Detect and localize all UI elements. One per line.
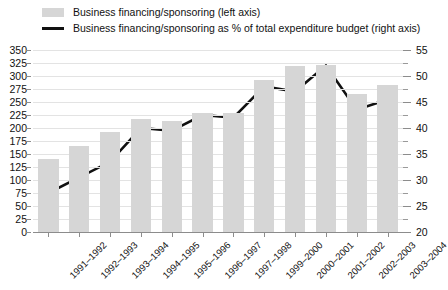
legend-item-bar: Business financing/sponsoring (left axis… <box>0 4 438 20</box>
x-axis-tick-mark <box>172 233 173 237</box>
x-axis-tick-mark <box>203 233 204 237</box>
y-axis-right-minor-tick-mark <box>403 89 408 90</box>
y-axis-right-tick-mark <box>403 76 411 77</box>
legend-line-label: Business financing/sponsoring as % of to… <box>73 23 420 34</box>
x-axis-tick-mark <box>110 233 111 237</box>
bar <box>316 65 336 232</box>
gridline <box>33 50 403 51</box>
y-axis-left-tick-label: 350 <box>9 45 27 55</box>
y-axis-left-tick-label: 325 <box>9 58 27 68</box>
x-axis-tick-mark <box>357 233 358 237</box>
x-axis-tick-mark <box>326 233 327 237</box>
bar <box>223 113 243 232</box>
y-axis-right-minor-tick-mark <box>403 167 408 168</box>
y-axis-left-tick-label: 200 <box>9 123 27 133</box>
gridline <box>33 76 403 77</box>
y-axis-left-tick-mark <box>26 180 31 181</box>
gridline <box>33 89 403 90</box>
y-axis-left-tick-label: 175 <box>9 136 27 146</box>
y-axis-left-tick-mark <box>26 50 31 51</box>
bar <box>192 113 212 232</box>
y-axis-right-tick-mark <box>403 206 411 207</box>
y-axis-right-tick-label: 55 <box>416 45 428 55</box>
bar <box>285 66 305 232</box>
gridline <box>33 63 403 64</box>
y-axis-right-minor-tick-mark <box>403 193 408 194</box>
y-axis-right-tick-label: 45 <box>416 97 428 107</box>
y-axis-left-tick-mark <box>26 154 31 155</box>
y-axis-right-minor-tick-mark <box>403 63 408 64</box>
x-axis-tick-mark <box>79 233 80 237</box>
x-axis-tick-mark <box>388 233 389 237</box>
y-axis-left-tick-label: 275 <box>9 84 27 94</box>
y-axis-left-tick-mark <box>26 115 31 116</box>
y-axis-left: 0255075100125150175200225250275300325350 <box>0 50 31 232</box>
y-axis-right-tick-mark <box>403 128 411 129</box>
y-axis-left-tick-mark <box>26 141 31 142</box>
bar <box>131 119 151 232</box>
y-axis-left-tick-mark <box>26 89 31 90</box>
y-axis-left-tick-label: 250 <box>9 97 27 107</box>
y-axis-right-tick-label: 35 <box>416 149 428 159</box>
bar <box>38 159 58 232</box>
y-axis-right-minor-tick-mark <box>403 141 408 142</box>
x-axis-tick-mark <box>48 233 49 237</box>
y-axis-right-tick-label: 25 <box>416 201 428 211</box>
y-axis-right-tick-label: 30 <box>416 175 428 185</box>
y-axis-right-tick-mark <box>403 154 411 155</box>
chart-legend: Business financing/sponsoring (left axis… <box>0 4 438 36</box>
y-axis-right-tick-mark <box>403 102 411 103</box>
x-axis-tick-mark <box>233 233 234 237</box>
y-axis-right-minor-tick-mark <box>403 219 408 220</box>
y-axis-right-tick-label: 40 <box>416 123 428 133</box>
y-axis-left-tick-mark <box>26 206 31 207</box>
legend-item-line: Business financing/sponsoring as % of to… <box>0 20 438 36</box>
y-axis-left-tick-label: 150 <box>9 149 27 159</box>
y-axis-left-tick-label: 100 <box>9 175 27 185</box>
y-axis-right-tick-label: 20 <box>416 227 428 237</box>
bar <box>254 80 274 232</box>
x-axis-tick-mark <box>141 233 142 237</box>
y-axis-right: 2025303540455055 <box>403 50 438 232</box>
bar <box>377 85 397 232</box>
legend-bar-swatch-icon <box>42 8 64 17</box>
y-axis-right-minor-tick-mark <box>403 115 408 116</box>
bar <box>100 132 120 232</box>
legend-line-swatch-icon <box>42 27 64 30</box>
y-axis-left-tick-label: 125 <box>9 162 27 172</box>
plot-area <box>33 50 403 233</box>
y-axis-right-tick-mark <box>403 232 411 233</box>
y-axis-left-tick-mark <box>26 167 31 168</box>
y-axis-right-tick-mark <box>403 50 411 51</box>
x-axis-tick-mark <box>295 233 296 237</box>
y-axis-right-tick-mark <box>403 180 411 181</box>
y-axis-left-tick-mark <box>26 102 31 103</box>
bar <box>347 94 367 232</box>
y-axis-left-tick-mark <box>26 76 31 77</box>
legend-bar-label: Business financing/sponsoring (left axis… <box>73 7 260 18</box>
y-axis-left-tick-mark <box>26 63 31 64</box>
y-axis-left-tick-label: 300 <box>9 71 27 81</box>
y-axis-left-tick-mark <box>26 193 31 194</box>
bar <box>162 121 182 232</box>
y-axis-left-tick-mark <box>26 232 31 233</box>
x-axis-labels: 1991–19921992–19931993–19941994–19951995… <box>33 233 403 290</box>
y-axis-left-tick-mark <box>26 219 31 220</box>
y-axis-left-tick-mark <box>26 128 31 129</box>
bar <box>69 146 89 232</box>
y-axis-right-tick-label: 50 <box>416 71 428 81</box>
y-axis-left-tick-label: 225 <box>9 110 27 120</box>
x-axis-tick-mark <box>264 233 265 237</box>
